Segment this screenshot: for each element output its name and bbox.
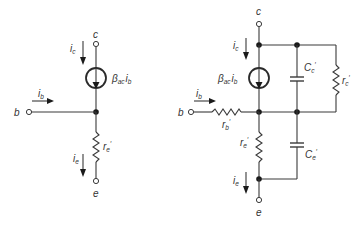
ie-label: ie	[73, 153, 79, 165]
base-terminal[interactable]	[188, 109, 193, 114]
collector-label: c	[93, 29, 98, 40]
rc-label: rc′	[342, 74, 351, 87]
base-label: b	[178, 107, 184, 118]
ib-label: ib	[196, 88, 202, 100]
ib-arrow-icon	[47, 98, 54, 104]
rb-resistor-icon	[212, 109, 241, 115]
source-label: βacib	[111, 73, 132, 85]
right-circuit: c ic βacib Cc′ rc′ b	[178, 6, 351, 218]
base-label: b	[14, 107, 20, 118]
collector-label: c	[256, 6, 261, 17]
emitter-terminal[interactable]	[93, 178, 98, 183]
left-circuit: c βacib b ib ic re′ ie e	[14, 29, 132, 199]
cc-label: Cc′	[304, 61, 316, 74]
ce-label: Ce′	[305, 148, 318, 161]
emitter-terminal[interactable]	[256, 197, 261, 202]
source-label: βacib	[217, 73, 238, 85]
rb-label: rb′	[222, 118, 231, 131]
ic-label: ic	[70, 43, 76, 55]
re-label: re′	[103, 140, 112, 153]
ic-label: ic	[233, 40, 239, 52]
collector-terminal[interactable]	[93, 41, 98, 46]
ie-arrow-icon	[80, 169, 86, 177]
ib-label: ib	[38, 88, 44, 100]
ic-arrow-icon	[80, 57, 86, 65]
ie-label: ie	[233, 175, 239, 187]
emitter-label: e	[256, 207, 262, 218]
ib-arrow-icon	[209, 98, 216, 104]
emitter-label: e	[93, 188, 99, 199]
rc-resistor-icon	[333, 65, 339, 95]
ic-arrow-icon	[243, 52, 249, 60]
re-label: re′	[240, 136, 249, 149]
ie-arrow-icon	[243, 186, 249, 194]
circuit-diagrams: c βacib b ib ic re′ ie e	[0, 0, 361, 225]
collector-terminal[interactable]	[256, 21, 261, 26]
re-resistor-icon	[256, 132, 262, 162]
base-terminal[interactable]	[26, 109, 31, 114]
re-resistor-icon	[93, 132, 99, 162]
